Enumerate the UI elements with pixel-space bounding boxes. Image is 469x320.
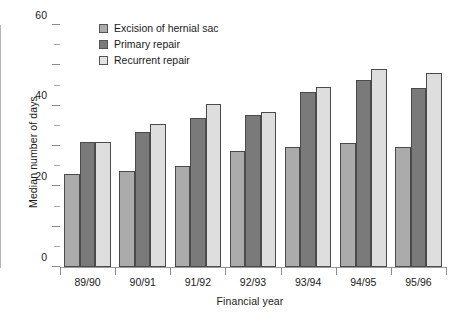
x-tick-label: 91/92 [185,276,211,288]
x-tick-label: 92/93 [240,276,266,288]
y-axis-line [0,25,1,268]
x-tick [170,267,171,275]
bar [150,124,166,267]
bar [190,118,206,267]
x-tick-label: 89/90 [74,276,100,288]
chart-legend: Excision of hernial sacPrimary repairRec… [99,21,218,69]
x-tick [446,267,447,275]
x-axis-title: Financial year [55,295,445,307]
x-tick-label: 95/96 [405,276,431,288]
y-tick-label: 40 [35,90,47,101]
y-tick-major: 60 [52,145,60,146]
bar [64,174,80,267]
bar [300,92,316,267]
y-tick-label: 0 [41,251,47,262]
bar [95,142,111,267]
y-tick-major: 40 [52,185,60,186]
x-tick [336,267,337,275]
bar [206,104,222,267]
bar [395,147,411,267]
bar [135,132,151,267]
legend-item: Primary repair [99,37,218,52]
x-axis-line [60,267,446,268]
x-tick-label: 90/91 [130,276,156,288]
bar [371,69,387,267]
bar [316,87,332,267]
x-tick-label: 94/95 [350,276,376,288]
legend-item: Excision of hernial sac [99,21,218,36]
bar [356,80,372,267]
x-tick-label: 93/94 [295,276,321,288]
y-tick-major: 100 [52,64,60,65]
bar [411,88,427,267]
bar [245,115,261,267]
x-tick [60,267,61,275]
legend-label: Primary repair [114,39,180,50]
legend-swatch-icon [99,56,108,65]
bar [80,142,96,267]
y-tick-label: 20 [35,171,47,182]
y-tick-major: 0 [52,266,60,267]
legend-item: Recurrent repair [99,53,218,68]
y-tick-major: 80 [52,105,60,106]
bar-chart: Median number of days 020406080100120 89… [0,0,469,320]
y-tick-major: 20 [52,226,60,227]
y-tick-label: 60 [35,9,47,20]
bar [285,147,301,267]
bar [119,171,135,267]
bar [175,166,191,267]
legend-label: Recurrent repair [114,55,190,66]
y-tick-major: 120 [52,24,60,25]
bar [230,151,246,267]
legend-swatch-icon [99,40,108,49]
bar [426,73,442,267]
x-tick [281,267,282,275]
x-tick [115,267,116,275]
legend-swatch-icon [99,24,108,33]
bar [340,143,356,267]
bar [261,112,277,267]
legend-label: Excision of hernial sac [114,23,218,34]
x-tick [391,267,392,275]
x-tick [225,267,226,275]
